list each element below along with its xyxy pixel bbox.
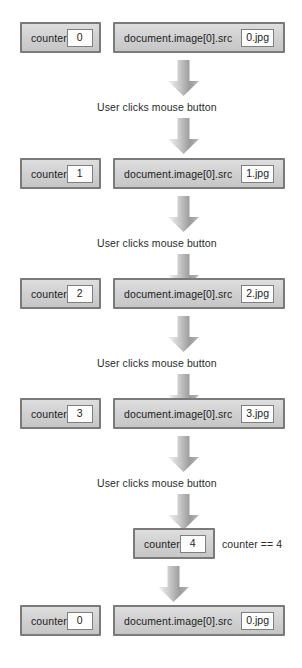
document-src-value: 2.jpg <box>241 285 274 303</box>
counter-value: 1 <box>67 165 93 183</box>
counter-label: counter <box>31 408 67 420</box>
document-src-label: document.image[0].src <box>124 408 232 420</box>
counter-box-reset: counter 0 <box>20 605 101 636</box>
document-src-value: 3.jpg <box>241 405 274 423</box>
click-caption-3: User clicks mouse button <box>97 477 217 489</box>
down-arrow-icon <box>168 118 199 154</box>
document-src-box-step-2: document.image[0].src 2.jpg <box>113 278 285 309</box>
counter-label: counter <box>31 168 67 180</box>
down-arrow-icon <box>168 316 199 352</box>
document-src-box-step-3: document.image[0].src 3.jpg <box>113 398 285 429</box>
counter-value: 0 <box>67 612 93 630</box>
counter-box-overflow: counter 4 <box>133 528 215 559</box>
counter-value: 2 <box>67 285 93 303</box>
click-caption-1: User clicks mouse button <box>97 237 217 249</box>
click-caption-0: User clicks mouse button <box>97 101 217 113</box>
down-arrow-icon <box>158 566 189 602</box>
document-src-label: document.image[0].src <box>124 288 232 300</box>
counter-value: 0 <box>67 29 93 47</box>
counter-label: counter <box>31 288 67 300</box>
counter-value: 3 <box>67 405 93 423</box>
counter-box-step-0: counter 0 <box>20 22 101 53</box>
document-src-value: 1.jpg <box>241 165 274 183</box>
counter-label: counter <box>31 32 67 44</box>
down-arrow-icon <box>168 60 199 96</box>
down-arrow-icon <box>168 196 199 232</box>
counter-box-step-2: counter 2 <box>20 278 101 309</box>
counter-box-step-1: counter 1 <box>20 158 101 189</box>
click-caption-2: User clicks mouse button <box>97 357 217 369</box>
document-src-label: document.image[0].src <box>124 168 232 180</box>
document-src-value: 0.jpg <box>241 612 274 630</box>
condition-note: counter == 4 <box>222 538 282 550</box>
counter-label: counter <box>144 538 180 550</box>
counter-label: counter <box>31 615 67 627</box>
document-src-label: document.image[0].src <box>124 32 232 44</box>
document-src-value: 0.jpg <box>241 29 274 47</box>
document-src-box-step-0: document.image[0].src 0.jpg <box>113 22 285 53</box>
counter-value: 4 <box>180 535 206 553</box>
down-arrow-icon <box>168 436 199 472</box>
document-src-box-step-1: document.image[0].src 1.jpg <box>113 158 285 189</box>
diagram-canvas: counter 0 document.image[0].src 0.jpg Us… <box>0 0 302 668</box>
document-src-label: document.image[0].src <box>124 615 232 627</box>
counter-box-step-3: counter 3 <box>20 398 101 429</box>
down-arrow-icon <box>168 494 199 530</box>
document-src-box-reset: document.image[0].src 0.jpg <box>113 605 285 636</box>
